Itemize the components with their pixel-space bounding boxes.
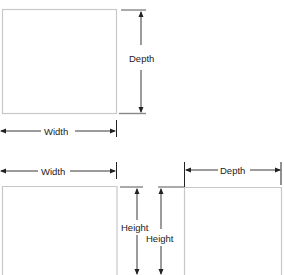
- top-view-box: [3, 10, 117, 114]
- front-width-label: Width: [41, 166, 65, 177]
- side-depth-dimension: Depth: [185, 162, 282, 187]
- side-view-box: [185, 188, 282, 275]
- dimension-diagram: Depth Width Width Height: [0, 0, 284, 275]
- top-depth-dimension: Depth: [119, 10, 154, 114]
- front-height-label-outer: Height: [121, 222, 149, 233]
- front-height-label-inner: Height: [146, 233, 174, 244]
- top-depth-label: Depth: [129, 53, 154, 64]
- front-height-dimension-inner: Height: [146, 187, 184, 274]
- top-view: Depth Width: [1, 10, 154, 138]
- top-width-label: Width: [44, 126, 68, 137]
- front-view-box: [3, 187, 118, 275]
- side-view: Depth: [185, 162, 282, 275]
- front-width-dimension: Width: [1, 162, 117, 179]
- front-height-dimension-outer: Height: [120, 187, 149, 274]
- top-width-dimension: Width: [1, 120, 117, 137]
- side-depth-label: Depth: [220, 165, 245, 176]
- front-view: Width Height Height: [1, 162, 184, 275]
